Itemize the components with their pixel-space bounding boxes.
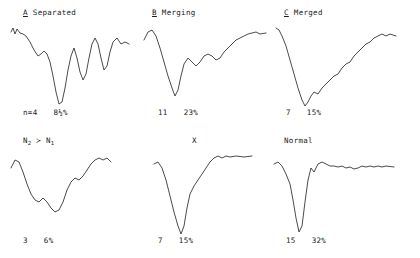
annotation-percent: 6% (44, 236, 54, 245)
annotation-percent: 32% (312, 236, 326, 245)
annotation-percent: 15% (179, 236, 193, 245)
annotation-count: 7 (158, 236, 163, 245)
trace-line (276, 28, 396, 106)
trace-line (154, 156, 252, 234)
trace-line (11, 158, 111, 212)
trace-svg (5, 146, 135, 236)
annotation-percent: 15% (307, 108, 321, 117)
annotation-count: n=4 (23, 108, 37, 117)
panel-separated: ASeparated n=48½% (5, 4, 135, 129)
trace-svg (5, 18, 135, 108)
figure-container: ASeparated n=48½% BMerging 1123% CMerged (0, 0, 420, 258)
annotation-count: 11 (158, 108, 168, 117)
trace-line (11, 28, 129, 104)
trace-merging (140, 18, 270, 108)
trace-svg (272, 146, 402, 236)
panel-annotation-merging: 1123% (158, 108, 288, 120)
panel-tag: C (284, 8, 289, 17)
annotation-count: 3 (23, 236, 28, 245)
annotation-count: 7 (286, 108, 291, 117)
panel-normal: Normal 1532% (272, 132, 402, 257)
annotation-percent: 8½% (53, 108, 67, 117)
trace-svg (140, 18, 270, 108)
panel-annotation-normal: 1532% (286, 236, 416, 248)
trace-n2-greater-n1 (5, 146, 135, 236)
panel-tag: B (152, 8, 157, 17)
panel-tag: A (23, 8, 28, 17)
panel-merging: BMerging 1123% (140, 4, 270, 129)
panel-title-text: Merged (294, 8, 323, 17)
annotation-count: 15 (286, 236, 296, 245)
panel-annotation-merged: 715% (286, 108, 416, 120)
trace-line (274, 162, 394, 232)
trace-svg (140, 146, 270, 236)
panel-title-text: Separated (33, 8, 76, 17)
panel-title-text: Normal (284, 136, 313, 145)
panel-title-text: Merging (162, 8, 196, 17)
panel-annotation-n2-greater-n1: 36% (23, 236, 153, 248)
trace-x (140, 146, 270, 236)
trace-merged (272, 18, 402, 108)
trace-line (144, 30, 266, 96)
trace-svg (272, 18, 402, 108)
panel-title-text: N2 ≻ N1 (23, 136, 54, 145)
panel-n2-greater-n1: N2 ≻ N1 36% (5, 132, 135, 257)
annotation-percent: 23% (184, 108, 198, 117)
panel-annotation-x: 715% (158, 236, 288, 248)
panel-title-text: X (192, 136, 197, 145)
panel-x: X 715% (140, 132, 270, 257)
trace-separated (5, 18, 135, 108)
trace-normal (272, 146, 402, 236)
panel-annotation-separated: n=48½% (23, 108, 153, 120)
panel-merged: CMerged 715% (272, 4, 402, 129)
